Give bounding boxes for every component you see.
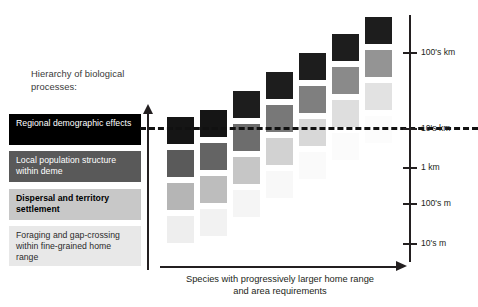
hierarchy-title-line-2: processes: [31, 81, 155, 94]
scale-tick-label: 10's km [421, 123, 450, 133]
scale-tick-mark [403, 203, 417, 205]
scale-cell [299, 53, 326, 80]
scale-cell [332, 67, 359, 94]
scale-cell [200, 209, 227, 236]
scale-cell [266, 138, 293, 165]
horizontal-axis-arrowhead-icon [396, 261, 407, 271]
hierarchy-box-regional-demographic-effects: Regional demographic effects [9, 114, 141, 145]
figure-canvas: Hierarchy of biological processes: Regio… [0, 0, 478, 307]
scale-cell [365, 83, 392, 110]
x-axis-caption-line-1: Species with progressively larger home r… [152, 273, 408, 285]
horizontal-axis-line [160, 266, 398, 268]
hierarchy-box-foraging-and-gap-crossing: Foraging and gap-crossing within fine-gr… [9, 226, 141, 266]
scale-cell [332, 133, 359, 160]
scale-tick-mark [403, 128, 417, 130]
scale-cell [299, 119, 326, 146]
hierarchy-title: Hierarchy of biological processes: [31, 68, 155, 93]
scale-cell [332, 100, 359, 127]
scale-tick-label: 100's km [421, 47, 455, 57]
scale-cell [167, 216, 194, 243]
hierarchy-box-label: Dispersal and territory settlement [16, 193, 109, 214]
scale-cell [233, 190, 260, 217]
scale-tick-mark [403, 243, 417, 245]
scale-cell [200, 176, 227, 203]
scale-cell [200, 143, 227, 170]
scale-tick-label: 100's m [421, 198, 451, 208]
scale-cell [365, 50, 392, 77]
scale-cell [365, 17, 392, 44]
scale-cell [299, 86, 326, 113]
scale-cell [233, 91, 260, 118]
x-axis-caption: Species with progressively larger home r… [152, 273, 408, 298]
scale-tick-label: 1 km [421, 162, 440, 172]
hierarchy-box-local-population-structure: Local population structure within deme [9, 151, 141, 182]
hierarchy-box-label: Regional demographic effects [16, 118, 131, 128]
hierarchy-box-label: Local population structure within deme [16, 155, 116, 176]
scale-cell [299, 152, 326, 179]
hierarchy-box-label: Foraging and gap-crossing within fine-gr… [16, 230, 120, 262]
scale-cell [167, 150, 194, 177]
scale-cell [266, 72, 293, 99]
vertical-axis-line [147, 112, 149, 270]
x-axis-caption-line-2: and area requirements [152, 285, 408, 297]
scale-cell [266, 171, 293, 198]
hierarchy-box-dispersal-and-territory-settlement: Dispersal and territory settlement [9, 189, 141, 220]
scale-tick-mark [403, 167, 417, 169]
hierarchy-title-line-1: Hierarchy of biological [31, 68, 155, 81]
scale-tick-label: 10's m [421, 238, 446, 248]
scale-cell [167, 183, 194, 210]
scale-cell [200, 110, 227, 137]
scale-cell [167, 117, 194, 144]
scale-tick-mark [403, 52, 417, 54]
scale-cell [332, 34, 359, 61]
scale-cell [233, 157, 260, 184]
